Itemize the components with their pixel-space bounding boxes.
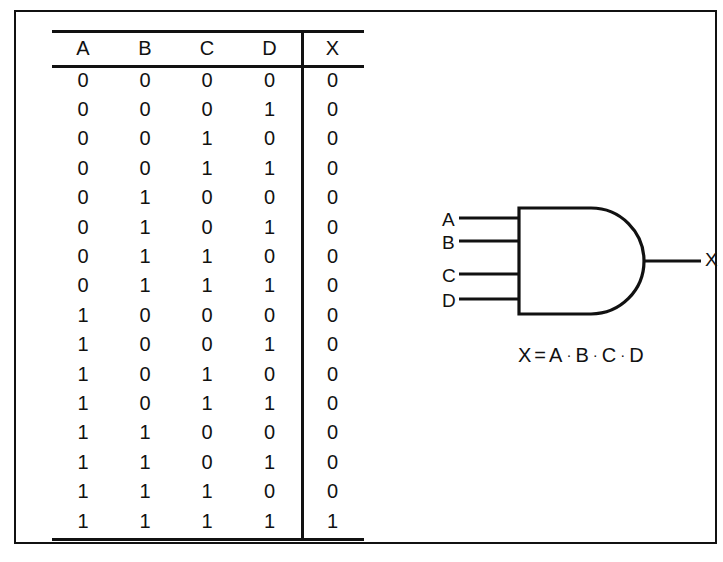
table-cell: 1 <box>114 212 176 241</box>
gate-body-outline <box>519 208 644 314</box>
table-row: 00110 <box>52 153 364 182</box>
table-cell: 0 <box>301 388 364 417</box>
table-cell: 1 <box>238 94 301 123</box>
table-row: 01100 <box>52 241 364 270</box>
table-cell: 0 <box>238 418 301 447</box>
table-cell: 0 <box>52 183 114 212</box>
table-cell: 0 <box>114 330 176 359</box>
table-cell: 0 <box>301 300 364 329</box>
table-cell: 1 <box>52 300 114 329</box>
table-row: 11010 <box>52 447 364 476</box>
table-cell: 0 <box>238 241 301 270</box>
table-row: 01000 <box>52 183 364 212</box>
table-cell: 1 <box>114 183 176 212</box>
table-row: 00010 <box>52 94 364 123</box>
and-gate-symbol-icon <box>416 192 716 342</box>
table-cell: 1 <box>176 476 238 505</box>
table-cell: 1 <box>114 447 176 476</box>
column-header-a: A <box>52 30 114 65</box>
figure-border: A B C D X 000000001000100001100100001010… <box>14 10 717 544</box>
table-cell: 1 <box>114 241 176 270</box>
table-cell: 0 <box>114 153 176 182</box>
table-cell: 0 <box>301 330 364 359</box>
table-cell: 0 <box>114 94 176 123</box>
table-cell: 1 <box>114 418 176 447</box>
table-cell: 0 <box>176 447 238 476</box>
column-header-b: B <box>114 30 176 65</box>
equation-operand-d: D <box>629 344 644 366</box>
equation-operator-2: · <box>593 346 599 363</box>
table-cell: 0 <box>301 212 364 241</box>
table-cell: 1 <box>176 271 238 300</box>
table-cell: 0 <box>52 65 114 94</box>
table-cell: 0 <box>176 330 238 359</box>
table-cell: 0 <box>114 300 176 329</box>
table-cell: 0 <box>301 94 364 123</box>
column-header-c: C <box>176 30 238 65</box>
table-cell: 0 <box>301 418 364 447</box>
table-cell: 0 <box>52 241 114 270</box>
table-cell: 1 <box>114 476 176 505</box>
table-cell: 0 <box>52 271 114 300</box>
truth-table: A B C D X 000000001000100001100100001010… <box>52 30 364 535</box>
table-cell: 0 <box>52 212 114 241</box>
table-row: 11100 <box>52 476 364 505</box>
table-cell: 0 <box>301 476 364 505</box>
table-bottom-rule <box>52 538 364 541</box>
table-cell: 1 <box>52 418 114 447</box>
equation-lhs: X <box>518 344 532 366</box>
table-row: 10000 <box>52 300 364 329</box>
table-row: 00100 <box>52 124 364 153</box>
table-cell: 1 <box>52 447 114 476</box>
table-cell: 1 <box>176 359 238 388</box>
table-cell: 0 <box>176 183 238 212</box>
table-cell: 0 <box>301 241 364 270</box>
table-cell: 1 <box>238 447 301 476</box>
table-cell: 1 <box>52 476 114 505</box>
equation-operator-3: · <box>620 346 626 363</box>
table-cell: 1 <box>52 330 114 359</box>
table-row: 00000 <box>52 65 364 94</box>
table-cell: 0 <box>301 124 364 153</box>
table-cell: 1 <box>52 388 114 417</box>
table-row: 01110 <box>52 271 364 300</box>
gate-input-label-d: D <box>442 291 456 310</box>
gate-input-label-b: B <box>442 233 455 252</box>
table-cell: 0 <box>52 124 114 153</box>
table-cell: 0 <box>301 271 364 300</box>
table-row: 11111 <box>52 506 364 535</box>
column-header-d: D <box>238 30 301 65</box>
table-cell: 1 <box>301 506 364 535</box>
table-cell: 0 <box>114 388 176 417</box>
table-cell: 1 <box>238 153 301 182</box>
table-cell: 1 <box>238 212 301 241</box>
table-header-row: A B C D X <box>52 30 364 65</box>
table-row: 10010 <box>52 330 364 359</box>
table-cell: 0 <box>238 65 301 94</box>
table-cell: 0 <box>301 153 364 182</box>
table-cell: 1 <box>176 124 238 153</box>
table-cell: 1 <box>238 271 301 300</box>
table-cell: 0 <box>52 94 114 123</box>
equation-operator-1: · <box>566 346 572 363</box>
equation-equals-sign: = <box>534 344 547 366</box>
table-cell: 0 <box>238 359 301 388</box>
table-cell: 1 <box>114 271 176 300</box>
table-cell: 1 <box>52 359 114 388</box>
table-cell: 0 <box>238 124 301 153</box>
table-cell: 1 <box>52 506 114 535</box>
table-cell: 1 <box>238 388 301 417</box>
table-cell: 0 <box>114 359 176 388</box>
table-cell: 1 <box>176 153 238 182</box>
table-cell: 1 <box>238 506 301 535</box>
table-cell: 0 <box>176 94 238 123</box>
table-cell: 0 <box>176 418 238 447</box>
table-cell: 1 <box>114 506 176 535</box>
table-cell: 0 <box>176 212 238 241</box>
equation-operand-c: C <box>602 344 617 366</box>
table-cell: 1 <box>176 388 238 417</box>
and-gate-diagram: A B C D X X=A·B·C·D <box>416 192 716 392</box>
table-cell: 0 <box>301 447 364 476</box>
column-header-x: X <box>301 30 364 65</box>
table-row: 11000 <box>52 418 364 447</box>
